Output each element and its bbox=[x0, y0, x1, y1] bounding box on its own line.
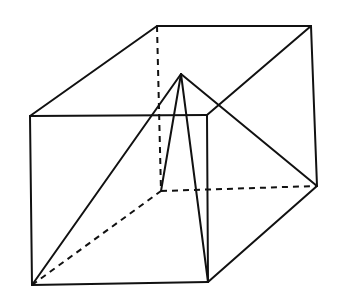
bottom-right-edge bbox=[208, 186, 317, 282]
top-left-edge bbox=[30, 26, 157, 116]
cube-hidden-edges bbox=[32, 26, 317, 285]
front-top-edge bbox=[30, 115, 207, 116]
pyramid-edge-front-left bbox=[32, 74, 181, 285]
front-bottom-edge bbox=[32, 282, 208, 285]
pyramid-edge-back-left bbox=[161, 74, 181, 191]
bottom-left-hidden-edge bbox=[32, 191, 161, 285]
back-bottom-hidden-edge bbox=[161, 186, 317, 191]
pyramid-edge-back-right bbox=[181, 74, 317, 186]
front-right-edge bbox=[207, 115, 208, 282]
front-left-edge bbox=[30, 116, 32, 285]
cube-pyramid-diagram bbox=[0, 0, 341, 294]
back-right-edge bbox=[311, 26, 317, 186]
pyramid-edges bbox=[32, 74, 317, 285]
cube-visible-edges bbox=[30, 26, 317, 285]
pyramid-edge-front-right bbox=[181, 74, 208, 282]
top-right-edge bbox=[207, 26, 311, 115]
